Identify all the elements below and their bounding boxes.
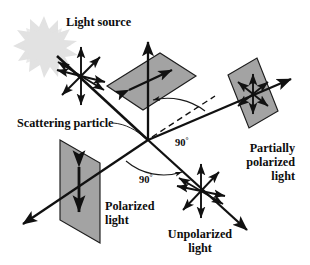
label-angle-lower: 90° [139,173,153,185]
light-scattering-polarization-diagram: Light source Scattering particle Polariz… [0,0,310,265]
label-angle-upper: 90° [175,136,189,148]
label-light-source: Light source [66,15,132,29]
right-angle-arc-upper [153,98,205,111]
label-partially-polarized-line1: Partially [250,141,295,155]
label-unpolarized-light-line1: Unpolarized [168,227,233,241]
unpolarized-scattered-ray [148,140,247,230]
label-polarized-light-line1: Polarized [105,199,155,213]
scattering-particle-leader-line [113,123,145,138]
vertical-polarization-plane-top [107,53,196,110]
label-partially-polarized-line3: light [271,169,295,183]
label-scattering-particle: Scattering particle [17,116,114,130]
label-unpolarized-light-line2: light [188,241,212,255]
diagram-canvas: Light source Scattering particle Polariz… [0,0,310,265]
label-partially-polarized-line2: polarized [246,155,295,169]
label-polarized-light-line2: light [105,213,129,227]
